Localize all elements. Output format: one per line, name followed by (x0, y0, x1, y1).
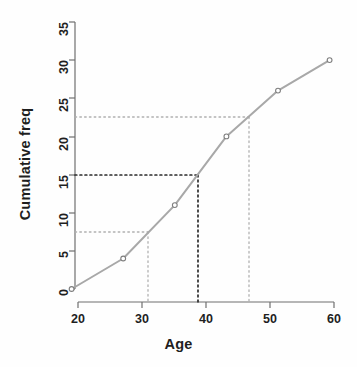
y-tick-label-30: 30 (57, 60, 71, 74)
x-tick-label-30: 30 (135, 312, 149, 326)
first-quartile-guide (75, 232, 148, 302)
y-tick-label-25: 25 (57, 98, 71, 112)
y-tick-label-15: 15 (57, 175, 71, 189)
y-axis-title: Cumulative freq (17, 94, 33, 234)
y-tick-label-0: 0 (57, 289, 71, 296)
third-quartile-guide (75, 117, 249, 302)
cumulative-frequency-chart: 0 5 10 15 20 25 30 35 20 30 40 50 60 Cum… (0, 0, 357, 367)
plot-area (0, 0, 357, 367)
x-axis (78, 302, 334, 308)
data-point-markers (69, 58, 332, 292)
x-tick-label-20: 20 (71, 312, 85, 326)
median-guide (75, 175, 198, 302)
y-tick-label-10: 10 (57, 213, 71, 227)
y-tick-label-5: 5 (57, 251, 71, 258)
x-tick-label-50: 50 (263, 312, 277, 326)
x-tick-label-60: 60 (327, 312, 341, 326)
x-axis-title: Age (0, 336, 357, 352)
x-tick-label-40: 40 (199, 312, 213, 326)
y-tick-label-35: 35 (57, 22, 71, 36)
y-tick-label-20: 20 (57, 137, 71, 151)
